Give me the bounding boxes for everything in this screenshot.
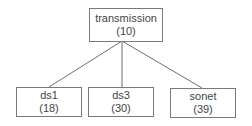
node-count: (10)	[116, 25, 136, 38]
node-ds3[interactable]: ds3 (30)	[88, 87, 154, 117]
node-count: (30)	[111, 102, 131, 115]
node-label: ds1	[40, 89, 58, 102]
node-ds1[interactable]: ds1 (18)	[16, 87, 82, 117]
edge-transmission-sonet	[122, 41, 202, 88]
node-sonet[interactable]: sonet (39)	[170, 88, 236, 118]
node-count: (18)	[39, 102, 59, 115]
node-label: ds3	[112, 89, 130, 102]
node-label: transmission	[95, 12, 157, 25]
node-label: sonet	[190, 90, 217, 103]
edge-transmission-ds1	[49, 41, 122, 87]
node-transmission[interactable]: transmission (10)	[89, 8, 163, 42]
node-count: (39)	[193, 103, 213, 116]
